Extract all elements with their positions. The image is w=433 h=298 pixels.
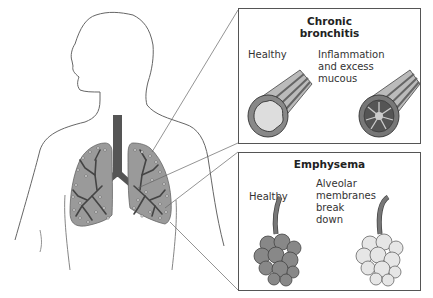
inflamed-bronchus <box>359 70 420 137</box>
damaged-alveoli <box>356 197 403 286</box>
bronchus-illustrations <box>238 8 421 144</box>
trachea <box>113 115 122 177</box>
alveoli-illustrations <box>238 152 421 291</box>
chronic-bronchitis-panel: Chronic bronchitis Healthy Inflammation … <box>238 8 421 144</box>
healthy-bronchus <box>248 70 312 137</box>
emphysema-panel: Emphysema Healthy Alveolar membranes bre… <box>238 152 421 291</box>
healthy-alveoli <box>254 197 301 286</box>
